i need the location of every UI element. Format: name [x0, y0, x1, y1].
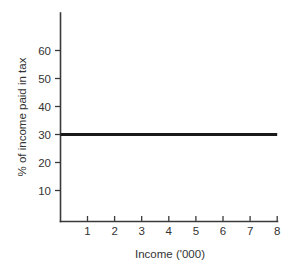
x-axis-title: Income ('000) — [135, 248, 205, 260]
y-tick-label-20: 20 — [38, 157, 51, 169]
y-axis-title: % of income paid in tax — [16, 57, 28, 176]
y-tick-label-10: 10 — [38, 185, 51, 197]
chart-container: 60 50 40 30 20 10 1 2 3 4 5 6 7 8 Income… — [0, 0, 297, 271]
x-tick-label-3: 3 — [138, 225, 144, 237]
line-chart: 60 50 40 30 20 10 1 2 3 4 5 6 7 8 Income… — [0, 0, 297, 271]
y-tick-label-60: 60 — [38, 45, 51, 57]
x-tick-label-1: 1 — [84, 225, 90, 237]
x-tick-label-8: 8 — [274, 225, 280, 237]
y-tick-label-50: 50 — [38, 73, 51, 85]
y-tick-label-30: 30 — [38, 129, 51, 141]
x-tick-label-5: 5 — [193, 225, 199, 237]
x-tick-label-4: 4 — [166, 225, 173, 237]
x-tick-label-6: 6 — [220, 225, 226, 237]
x-tick-label-7: 7 — [247, 225, 253, 237]
y-tick-label-40: 40 — [38, 101, 51, 113]
x-tick-label-2: 2 — [111, 225, 117, 237]
